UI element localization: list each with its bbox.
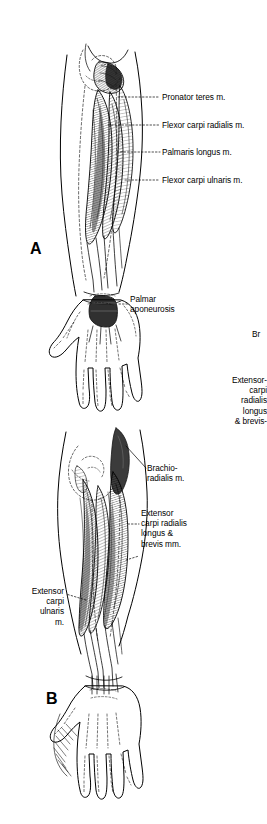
label-brachioradialis: Brachio- radialis m. bbox=[147, 463, 184, 483]
label-palmaris-longus: Palmaris longus m. bbox=[162, 147, 232, 157]
label-palmar-aponeurosis: Palmar aponeurosis bbox=[130, 294, 175, 314]
label-extensor-carpi-ulnaris: Extensor carpi ulnaris m. bbox=[0, 586, 64, 627]
panel-a-artwork bbox=[49, 44, 142, 411]
panel-letter-a: A bbox=[30, 240, 42, 258]
panel-b-artwork bbox=[50, 428, 147, 799]
label-pronator-teres: Pronator teres m. bbox=[162, 92, 225, 102]
panel-letter-b: B bbox=[46, 690, 58, 708]
label-ecrl-ecrb: Extensor carpi radialis longus & brevis … bbox=[141, 508, 187, 549]
label-cropped-brachioradialis: Br bbox=[252, 329, 260, 339]
label-flexor-carpi-ulnaris: Flexor carpi ulnaris m. bbox=[162, 175, 242, 185]
label-cropped-ecrl-ecrb: Extensor- carpi radialis longus & brevis… bbox=[187, 375, 267, 426]
anatomy-figure: Pronator teres m. Flexor carpi radialis … bbox=[0, 0, 267, 824]
label-flexor-carpi-radialis: Flexor carpi radialis m. bbox=[162, 120, 244, 130]
